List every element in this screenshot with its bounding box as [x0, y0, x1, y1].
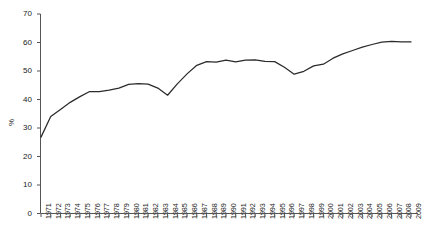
plot-area	[0, 0, 430, 252]
line-chart: % 010203040506070 1971197219731974197519…	[0, 0, 430, 252]
y-axis-ticks	[37, 14, 41, 214]
x-axis-ticks	[41, 214, 411, 218]
axes	[37, 14, 418, 217]
data-series-line	[41, 41, 411, 137]
